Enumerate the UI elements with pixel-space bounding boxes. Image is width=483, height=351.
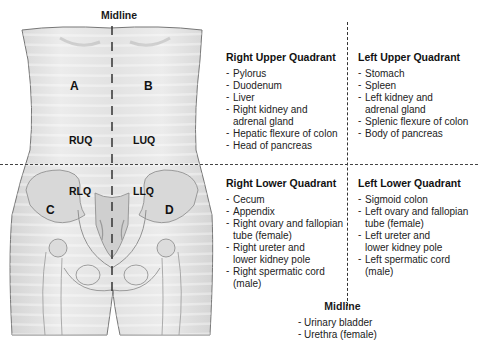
list-item: Left spermatic cord (male) [358, 254, 465, 278]
list-item: Head of pancreas [226, 140, 346, 152]
label-llq: LLQ [133, 185, 154, 197]
label-luq: LUQ [133, 134, 155, 146]
organ-list: Pylorus Duodenum Liver Right kidney and … [226, 68, 346, 152]
list-item: Duodenum [226, 80, 346, 92]
quadrant-ruq: Right Upper Quadrant Pylorus Duodenum Li… [226, 51, 346, 152]
region-letter-a: A [70, 79, 79, 93]
list-item: Sigmoid colon [358, 194, 480, 206]
midline-label-top: Midline [94, 9, 144, 21]
list-item: Left ovary and fallopian tube (female) [358, 206, 479, 230]
list-item: Splenic flexure of colon [358, 116, 480, 128]
quadrant-title: Right Lower Quadrant [226, 177, 346, 189]
horizontal-divider [0, 164, 478, 165]
list-item: Cecum [226, 194, 346, 206]
quadrant-rlq: Right Lower Quadrant Cecum Appendix Righ… [226, 177, 346, 290]
region-letter-c: C [46, 203, 55, 217]
list-item: Right spermatic cord (male) [226, 266, 343, 290]
list-item: Liver [226, 92, 346, 104]
quadrant-title: Left Upper Quadrant [358, 51, 480, 63]
list-item: Pylorus [226, 68, 346, 80]
list-item: Hepatic flexure of colon [226, 128, 346, 140]
quadrant-luq: Left Upper Quadrant Stomach Spleen Left … [358, 51, 480, 140]
list-item: Urethra (female) [298, 329, 377, 341]
list-item: Urinary bladder [298, 317, 377, 329]
list-item: Appendix [226, 206, 346, 218]
torso-illustration [0, 0, 230, 351]
organ-list: Sigmoid colon Left ovary and fallopian t… [358, 194, 480, 278]
organ-list: Cecum Appendix Right ovary and fallopian… [226, 194, 346, 290]
quadrant-title: Right Upper Quadrant [226, 51, 346, 63]
midline-title: Midline [298, 300, 377, 312]
midline-section: Midline Urinary bladder Urethra (female) [298, 300, 377, 341]
list-item: Left ureter and lower kidney pole [358, 230, 455, 254]
list-item: Stomach [358, 68, 480, 80]
vertical-divider [347, 22, 348, 306]
list-item: Left kidney and adrenal gland [358, 92, 450, 116]
quadrant-llq: Left Lower Quadrant Sigmoid colon Left o… [358, 177, 480, 278]
organ-list: Stomach Spleen Left kidney and adrenal g… [358, 68, 480, 140]
quadrant-title: Left Lower Quadrant [358, 177, 480, 189]
list-item: Right ureter and lower kidney pole [226, 242, 323, 266]
abdomen-figure: Midline A B C D RUQ LUQ RLQ LLQ [0, 0, 230, 351]
organ-list: Urinary bladder Urethra (female) [298, 317, 377, 341]
list-item: Spleen [358, 80, 480, 92]
region-letter-b: B [144, 79, 153, 93]
region-letter-d: D [165, 203, 174, 217]
list-item: Right kidney and adrenal gland [226, 104, 323, 128]
label-ruq: RUQ [69, 134, 92, 146]
list-item: Body of pancreas [358, 128, 480, 140]
label-rlq: RLQ [69, 185, 91, 197]
list-item: Right ovary and fallopian tube (female) [226, 218, 347, 242]
